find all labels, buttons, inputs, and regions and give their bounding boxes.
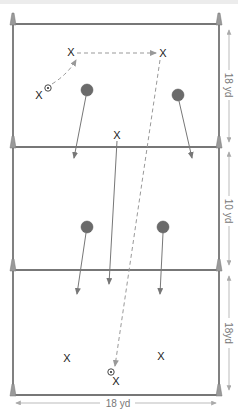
soccer-ball-icon [45, 85, 51, 91]
cone-icon [216, 13, 222, 25]
defender-circle-icon [81, 221, 93, 233]
dimension-label-top-zone: 18 yd [223, 73, 234, 97]
run-arrows [74, 96, 192, 294]
cone-icon [216, 259, 222, 271]
defender-run-arrow [74, 96, 86, 158]
pass-arrows [52, 53, 160, 366]
pass-arrow-long [115, 60, 160, 366]
defender-circle-icon [157, 221, 169, 233]
player-marker: X [63, 352, 71, 364]
cone-icon [216, 384, 222, 396]
cone-icon [10, 259, 16, 271]
player-marker: X [35, 89, 43, 101]
cones [10, 13, 222, 396]
dimension-label-width: 18 yd [106, 398, 130, 409]
defender-run-arrow [179, 101, 192, 158]
field-lines [13, 24, 219, 395]
soccer-ball-icon [108, 369, 114, 375]
players: X X X X X X X [35, 46, 167, 387]
dimension-label-bottom-zone: 18yd [223, 322, 234, 344]
cone-icon [10, 13, 16, 25]
defender-run-arrow [160, 233, 163, 294]
defenders [81, 84, 184, 233]
defender-circle-icon [81, 84, 93, 96]
dimension-label-middle-zone: 10 yd [223, 199, 234, 223]
player-marker: X [112, 375, 120, 387]
defender-circle-icon [172, 89, 184, 101]
player-run-arrow [109, 141, 117, 284]
player-marker: X [113, 129, 121, 141]
cone-icon [216, 136, 222, 148]
defender-run-arrow [77, 233, 86, 294]
player-marker: X [159, 47, 167, 59]
drill-diagram: 18 yd 10 yd 18yd 18 yd X X X X X X X [0, 0, 238, 409]
pass-arrow-short [52, 60, 76, 84]
cone-icon [10, 384, 16, 396]
player-marker: X [157, 350, 165, 362]
cone-icon [10, 136, 16, 148]
player-marker: X [67, 46, 75, 58]
